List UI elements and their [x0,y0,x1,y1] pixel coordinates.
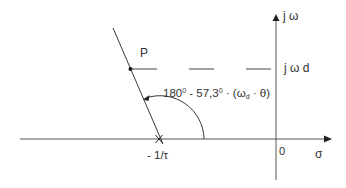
angle-part2: - 57,3 [186,87,219,99]
angle-part4: · θ) [250,87,270,99]
angle-arc [146,96,204,139]
angle-part3: · (ω [223,87,246,99]
pole-label: - 1/τ [147,150,168,162]
real-axis-arrow-icon [324,136,332,143]
angle-part1: 180 [163,87,182,99]
point-p-label: P [140,47,148,59]
pole-to-p-line [113,28,163,144]
imaginary-axis-arrow-icon [273,14,280,21]
angle-formula: 1800 - 57,30 · (ωd · θ) [163,87,270,100]
origin-label: 0 [279,146,285,157]
jwd-label: j ω d [284,62,309,74]
imaginary-axis-label: j ω [283,10,298,22]
real-axis-label: σ [315,148,322,160]
